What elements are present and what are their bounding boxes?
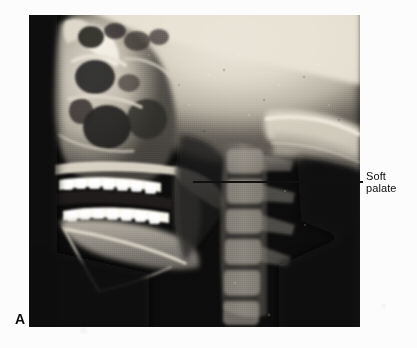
radiograph-image [29, 15, 360, 327]
lateral-cephalometric-radiograph[interactable] [29, 15, 360, 327]
figure-panel-letter: A [15, 311, 25, 327]
soft-palate-label-line1: Soft [366, 170, 397, 182]
soft-palate-label-line2: palate [366, 182, 397, 194]
figure-container: Soft palate A [0, 0, 417, 348]
soft-palate-label: Soft palate [366, 170, 397, 194]
soft-palate-leader-line [193, 181, 363, 183]
